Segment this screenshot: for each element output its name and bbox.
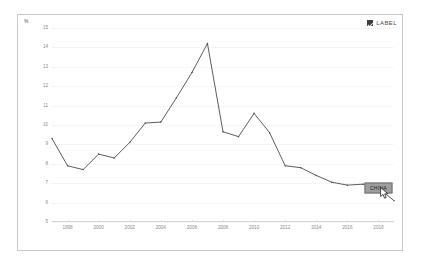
line-series-path <box>52 44 394 201</box>
x-axis-tick-label: 2018 <box>373 226 383 231</box>
y-axis-tick-label: 12 <box>43 84 48 89</box>
data-point-marker[interactable] <box>145 122 147 124</box>
x-axis-tick-label: 2004 <box>156 226 166 231</box>
gridline <box>52 222 394 223</box>
y-axis-tick-label: 8 <box>45 162 48 167</box>
data-point-marker[interactable] <box>207 43 209 45</box>
x-axis-tick-label: 2002 <box>125 226 135 231</box>
y-axis-tick-label: 9 <box>45 142 48 147</box>
y-axis-tick-label: 6 <box>45 200 48 205</box>
data-point-marker[interactable] <box>222 131 224 133</box>
mouse-pointer-icon <box>380 187 389 199</box>
data-point-marker[interactable] <box>300 167 302 169</box>
x-axis-tick-mark <box>130 220 131 222</box>
x-axis-tick-label: 2000 <box>94 226 104 231</box>
data-point-marker[interactable] <box>362 183 364 185</box>
x-axis-tick-label: 2012 <box>280 226 290 231</box>
x-axis-tick-label: 2014 <box>311 226 321 231</box>
x-axis-tick-label: 1998 <box>62 226 72 231</box>
x-axis-tick-mark <box>68 220 69 222</box>
x-axis-tick-mark <box>192 220 193 222</box>
x-axis-tick-mark <box>254 220 255 222</box>
x-axis-tick-mark <box>347 220 348 222</box>
legend-series-label: LABEL <box>376 20 397 26</box>
x-axis-tick-label: 2010 <box>249 226 259 231</box>
chart-legend[interactable]: LABEL <box>367 20 397 26</box>
data-point-marker[interactable] <box>67 165 69 167</box>
x-axis-tick-mark <box>99 220 100 222</box>
y-axis-tick-label: 7 <box>45 181 48 186</box>
data-point-marker[interactable] <box>51 138 53 140</box>
x-axis-tick-mark <box>378 220 379 222</box>
line-series-group <box>52 28 394 222</box>
data-point-marker[interactable] <box>269 132 271 134</box>
chart-plot-shell: % LABEL 15141312111098765 19982000200220… <box>18 15 402 250</box>
x-axis-tick-mark <box>161 220 162 222</box>
data-point-marker[interactable] <box>393 200 395 202</box>
data-point-marker[interactable] <box>98 153 100 155</box>
y-axis-tick-label: 10 <box>43 123 48 128</box>
data-point-marker[interactable] <box>160 121 162 123</box>
x-axis-tick-mark <box>316 220 317 222</box>
data-point-marker[interactable] <box>238 136 240 138</box>
checked-checkbox-icon[interactable] <box>367 20 373 26</box>
data-point-marker[interactable] <box>191 72 193 74</box>
x-axis-tick-mark <box>223 220 224 222</box>
data-point-marker[interactable] <box>82 169 84 171</box>
data-point-marker[interactable] <box>253 113 255 115</box>
x-axis-tick-label: 2006 <box>187 226 197 231</box>
data-point-marker[interactable] <box>347 184 349 186</box>
y-axis-tick-label: 5 <box>45 220 48 225</box>
plot-area: 15141312111098765 1998200020022004200620… <box>52 28 394 222</box>
data-point-marker[interactable] <box>331 181 333 183</box>
y-axis-unit-label: % <box>24 19 29 24</box>
data-point-marker[interactable] <box>316 175 318 177</box>
x-axis-tick-mark <box>285 220 286 222</box>
chart-card: % LABEL 15141312111098765 19982000200220… <box>17 14 403 251</box>
x-axis-tick-label: 2016 <box>342 226 352 231</box>
data-point-marker[interactable] <box>129 142 131 144</box>
y-axis-tick-label: 14 <box>43 45 48 50</box>
y-axis-tick-label: 15 <box>43 26 48 31</box>
y-axis-tick-label: 11 <box>43 103 48 108</box>
x-axis-tick-label: 2008 <box>218 226 228 231</box>
data-point-marker[interactable] <box>284 165 286 167</box>
data-point-marker[interactable] <box>176 97 178 99</box>
y-axis-tick-label: 13 <box>43 65 48 70</box>
data-point-marker[interactable] <box>113 157 115 159</box>
